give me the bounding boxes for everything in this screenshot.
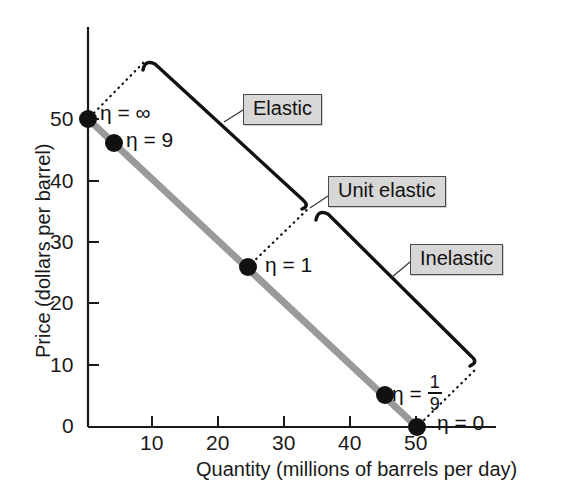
point-eta-1 (239, 258, 257, 276)
unit-elastic-leader (310, 196, 328, 208)
region-box-unit-elastic: Unit elastic (328, 176, 446, 207)
point-eta-infinity (79, 110, 97, 128)
x-tick-label-20: 20 (206, 431, 229, 455)
y-tick-label-10: 10 (50, 353, 73, 377)
y-tick-label-20: 20 (50, 291, 73, 315)
point-eta-9 (105, 134, 123, 152)
elastic-leader (224, 110, 243, 122)
fraction-numerator: 1 (428, 373, 442, 392)
eta-one-ninth-label: η = 19 (392, 375, 442, 415)
inelastic-leader (392, 262, 410, 277)
eta-infinity-label: η = ∞ (100, 101, 151, 125)
region-box-inelastic: Inelastic (410, 244, 503, 275)
fraction-one-ninth: 19 (428, 373, 442, 413)
region-box-elastic: Elastic (243, 94, 322, 125)
inelastic-bracket (316, 212, 475, 366)
x-tick-label-10: 10 (140, 431, 163, 455)
axes-group (88, 27, 496, 427)
eta-0-label: η = 0 (437, 411, 484, 435)
x-tick-label-50: 50 (404, 431, 427, 455)
y-tick-label-40: 40 (50, 169, 73, 193)
elasticity-chart-figure: Price (dollars per barrel) Quantity (mil… (0, 0, 581, 492)
eta-one-ninth-prefix: η = (392, 382, 428, 405)
y-tick-label-30: 30 (50, 230, 73, 254)
origin-label: 0 (62, 414, 74, 438)
y-tick-label-50: 50 (50, 107, 73, 131)
x-tick-label-40: 40 (338, 431, 361, 455)
x-axis-title: Quantity (millions of barrels per day) (196, 458, 517, 481)
eta-1-label: η = 1 (265, 253, 312, 277)
x-tick-label-30: 30 (272, 431, 295, 455)
eta-9-label: η = 9 (126, 128, 173, 152)
